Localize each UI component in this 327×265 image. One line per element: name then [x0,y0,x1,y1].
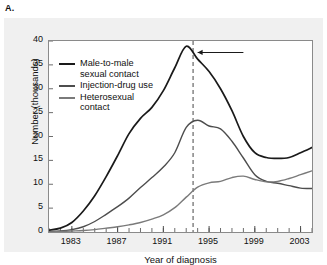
series-line-injection-drug-use [49,120,312,231]
legend-label-line2: sexual contact [80,69,139,79]
y-tick-label: 10 [17,177,43,187]
legend-label-injection-drug-use: Injection-drug use [80,80,153,91]
legend-label-line1: Injection-drug use [80,80,153,90]
panel-label: A. [5,3,14,13]
x-axis-label: Year of diagnosis [48,254,313,265]
legend-swatch-male-to-male [59,63,75,65]
x-tick-label: 1987 [97,236,137,246]
y-tick-label: 5 [17,201,43,211]
legend-item: Injection-drug use [59,80,184,91]
y-tick-label: 20 [17,130,43,140]
x-tick-label: 1995 [188,236,228,246]
legend-label-heterosexual-contact: Heterosexual contact [80,92,134,113]
legend-label-line1: Heterosexual [80,92,134,102]
legend-swatch-heterosexual-contact [59,97,75,99]
y-tick-label: 35 [17,58,43,68]
y-tick-label: 25 [17,106,43,116]
y-tick-label: 0 [17,225,43,235]
legend-label-male-to-male: Male-to-male sexual contact [80,58,139,79]
x-tick-label: 1999 [234,236,274,246]
y-tick-label: 40 [17,34,43,44]
legend-label-line1: Male-to-male [80,58,134,68]
x-tick-label: 1983 [51,236,91,246]
chart-figure: Number (thousands) Year of diagnosis 051… [4,18,323,252]
legend-swatch-injection-drug-use [59,85,75,87]
y-tick-label: 30 [17,82,43,92]
y-tick-label: 15 [17,153,43,163]
annotation-arrow-head [198,50,203,55]
legend-item: Heterosexual contact [59,92,184,113]
x-tick-label: 1991 [142,236,182,246]
x-tick-label: 2003 [280,236,320,246]
legend-label-line2: contact [80,102,110,112]
series-line-heterosexual-contact [49,171,312,232]
legend-item: Male-to-male sexual contact [59,58,184,79]
chart-legend: Male-to-male sexual contact Injection-dr… [59,58,184,114]
